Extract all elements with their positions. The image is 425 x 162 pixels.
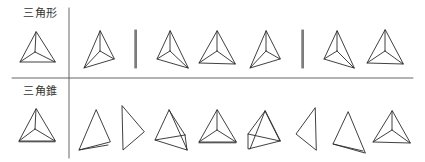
triangle-variant-6-icon (302, 30, 303, 68)
pyramid-variant-8-icon (373, 111, 410, 143)
figure-canvas (0, 0, 425, 162)
triangle-variant-7-icon (324, 31, 354, 68)
triangle-variant-1-icon (84, 31, 114, 68)
pyramid-variant-3-icon (155, 110, 187, 150)
pyramid-variant-4-icon (199, 110, 236, 143)
pyramid-variant-5-icon (248, 111, 280, 149)
pyramid-variant-2-icon (122, 106, 144, 150)
triangle-reference-icon (20, 32, 55, 62)
triangle-variant-3-icon (157, 31, 188, 68)
triangle-variant-8-icon (367, 30, 403, 64)
pyramid-variant-1-icon (79, 110, 110, 150)
triangle-variant-5-icon (250, 31, 280, 68)
pyramid-variant-7-icon (333, 112, 365, 153)
pyramid-reference-icon (19, 109, 55, 142)
triangle-variant-4-icon (199, 31, 235, 64)
pyramid-variant-6-icon (296, 108, 316, 150)
triangle-variant-2-icon (135, 30, 136, 68)
